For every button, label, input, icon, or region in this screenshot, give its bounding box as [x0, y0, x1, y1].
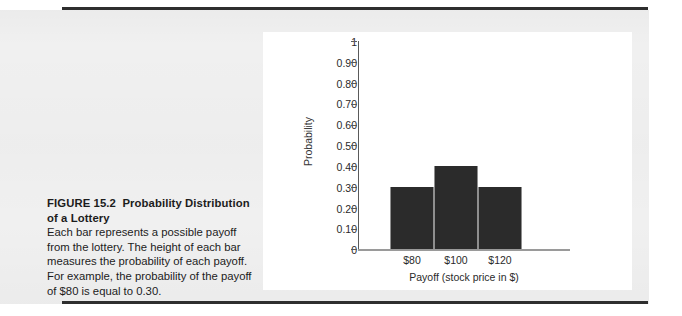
- y-tick-mark: [351, 83, 357, 84]
- x-axis-title: Payoff (stock price in $): [358, 271, 570, 283]
- y-tick-label: 0.80: [317, 79, 357, 90]
- y-tick-mark: [351, 187, 357, 188]
- y-tick-label: 0.90: [317, 58, 357, 69]
- x-tick-label: $120: [477, 254, 523, 266]
- y-tick-label: 1: [317, 37, 357, 48]
- y-tick-mark: [351, 104, 357, 105]
- bar-series: [390, 41, 523, 249]
- y-tick-mark: [351, 145, 357, 146]
- figure-page: FIGURE 15.2 Probability Distribution of …: [0, 0, 682, 316]
- y-tick-mark: [351, 229, 357, 230]
- chart-panel: Probability 1 0.90 0.80 0.70 0.60 0.50 0…: [263, 32, 632, 290]
- top-rule: [62, 7, 648, 10]
- figure-number: FIGURE 15.2: [47, 197, 116, 209]
- y-axis-title: Probability: [302, 152, 314, 166]
- bar-chart: Probability 1 0.90 0.80 0.70 0.60 0.50 0…: [263, 32, 632, 290]
- figure-heading: FIGURE 15.2 Probability Distribution of …: [47, 197, 250, 224]
- bar: [390, 187, 434, 249]
- bar: [478, 187, 522, 249]
- y-tick-mark: [351, 62, 357, 63]
- x-tick-label: $80: [389, 254, 435, 266]
- bottom-rule: [62, 301, 648, 304]
- figure-body-text: Each bar represents a possible payoff fr…: [47, 225, 259, 298]
- y-tick-mark: [351, 249, 357, 250]
- y-tick-mark: [351, 125, 357, 126]
- y-tick-label: 0: [317, 245, 357, 256]
- x-tick-label: $100: [433, 254, 479, 266]
- figure-caption: FIGURE 15.2 Probability Distribution of …: [47, 196, 259, 298]
- y-tick-mark: [351, 41, 357, 42]
- bar: [434, 166, 478, 249]
- x-axis-spine: [358, 249, 570, 251]
- y-tick-label: 0.20: [317, 204, 357, 215]
- y-tick-mark: [351, 166, 357, 167]
- y-tick-label: 0.30: [317, 183, 357, 194]
- y-axis-spine: [358, 41, 359, 249]
- y-tick-label: 0.40: [317, 162, 357, 173]
- y-tick-label: 0.50: [317, 141, 357, 152]
- y-tick-mark: [351, 208, 357, 209]
- y-tick-labels: 1 0.90 0.80 0.70 0.60 0.50 0.40 0.30 0.2…: [315, 32, 357, 290]
